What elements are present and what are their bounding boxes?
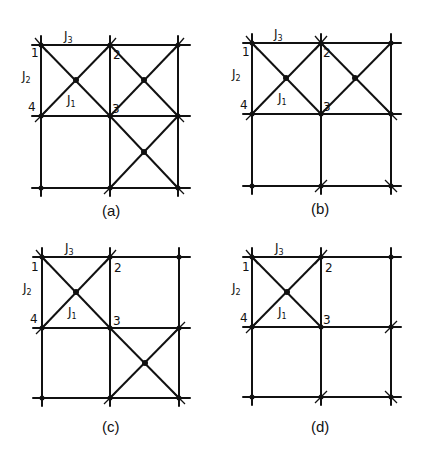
node-label-4: 4 [240,98,248,112]
node-label-2: 2 [114,261,122,275]
label-j2: J2 [21,69,31,85]
node-label-4: 4 [30,312,38,326]
label-j1: J1 [66,93,76,109]
node-label-1: 1 [242,45,250,59]
label-j1: J1 [277,91,287,107]
panel-c: J3 J2 J1 1 2 3 4 (c) [22,241,190,435]
node-label-3: 3 [323,100,331,114]
label-j1: J1 [277,305,287,321]
panel-b: J3 J2 J1 1 2 3 4 (b) [231,27,401,217]
caption-a: (a) [102,202,120,219]
label-j2: J2 [22,281,32,297]
label-j2: J2 [231,281,241,297]
label-j1: J1 [67,305,77,321]
caption-c: (c) [102,418,120,435]
label-j3: J3 [273,27,283,43]
panel-a: J3 J2 J1 1 2 3 4 (a) [21,29,190,219]
label-j3: J3 [63,29,73,45]
node-label-3: 3 [323,313,331,327]
node-label-1: 1 [31,260,39,274]
node-label-2: 2 [113,48,121,62]
node-label-3: 3 [113,314,121,328]
label-j3: J3 [274,241,284,257]
node-label-4: 4 [28,100,36,114]
node-label-2: 2 [325,261,333,275]
node-label-4: 4 [240,311,248,325]
node-label-3: 3 [112,102,120,116]
node-label-1: 1 [31,46,39,60]
node-label-2: 2 [323,46,331,60]
panel-d: J3 J2 J1 1 2 3 4 (d) [231,241,401,435]
label-j2: J2 [231,67,241,83]
label-j3: J3 [64,241,74,257]
node-label-1: 1 [242,260,250,274]
caption-b: (b) [311,200,329,217]
lattice-figure: J3 J2 J1 1 2 3 4 (a) [0,0,426,458]
caption-d: (d) [311,418,329,435]
